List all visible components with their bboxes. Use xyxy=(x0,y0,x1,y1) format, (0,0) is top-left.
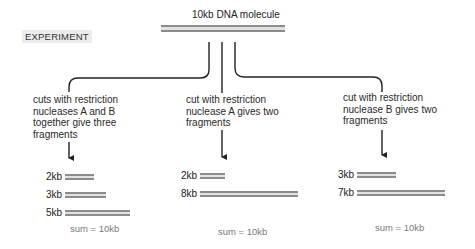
fragment-8kb xyxy=(200,191,298,197)
description-line: cut with restriction xyxy=(186,94,279,106)
description-line: cuts with restriction xyxy=(33,94,118,106)
branch-a-description: cut with restriction nuclease A gives tw… xyxy=(186,94,279,129)
fragment-label: 2kb xyxy=(181,170,197,181)
description-line: fragments xyxy=(33,129,118,141)
fragment-label: 5kb xyxy=(46,207,62,218)
fragment-2kb xyxy=(200,173,225,179)
fragment-label: 3kb xyxy=(338,169,354,180)
fragment-2kb xyxy=(65,174,94,180)
fragment-label: 2kb xyxy=(46,171,62,182)
fragment-3kb xyxy=(65,192,106,198)
fragment-5kb xyxy=(65,210,130,216)
right-branch-line xyxy=(235,42,382,92)
description-line: nucleases A and B xyxy=(33,106,118,118)
sum-label: sum = 10kb xyxy=(70,223,119,234)
sum-label: sum = 10kb xyxy=(218,226,267,237)
description-line: nuclease B gives two xyxy=(343,104,437,116)
sum-label: sum = 10kb xyxy=(375,222,424,233)
branch-b-description: cut with restriction nuclease B gives tw… xyxy=(343,92,437,127)
fragment-label: 3kb xyxy=(46,189,62,200)
fragment-label: 8kb xyxy=(181,188,197,199)
description-line: nuclease A gives two xyxy=(186,106,279,118)
description-line: cut with restriction xyxy=(343,92,437,104)
fragment-label: 7kb xyxy=(338,187,354,198)
description-line: fragments xyxy=(186,117,279,129)
left-branch-line xyxy=(69,42,209,92)
fragment-7kb xyxy=(357,190,445,196)
fragment-3kb xyxy=(357,172,396,178)
branch-ab-description: cuts with restriction nucleases A and B … xyxy=(33,94,118,140)
description-line: fragments xyxy=(343,115,437,127)
description-line: together give three xyxy=(33,117,118,129)
